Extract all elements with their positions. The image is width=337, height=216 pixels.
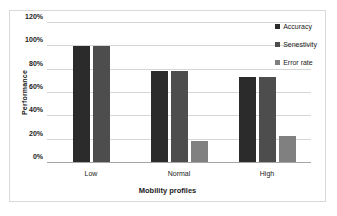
- legend-label: Accuracy: [283, 23, 312, 30]
- bar: [259, 77, 276, 163]
- legend-item: Senestivity: [275, 41, 317, 48]
- y-axis-tick-label: 120%: [25, 13, 43, 20]
- x-axis-category-label: Low: [47, 170, 135, 177]
- legend-item: Error rate: [275, 59, 317, 66]
- y-axis-tick-label: 80%: [29, 59, 43, 66]
- y-axis-tick-label: 20%: [29, 129, 43, 136]
- chart-container: Performance 0%20%40%60%80%100%120% LowNo…: [9, 10, 326, 202]
- legend-item: Accuracy: [275, 23, 317, 30]
- y-axis-tick-label: 60%: [29, 83, 43, 90]
- x-axis-category-label: High: [223, 170, 311, 177]
- legend-swatch-icon: [275, 60, 280, 65]
- bar: [151, 71, 168, 163]
- legend-label: Error rate: [283, 59, 313, 66]
- chart-legend: AccuracySenestivityError rate: [275, 23, 317, 66]
- x-axis-title: Mobility profiles: [10, 186, 325, 195]
- x-axis-category-label: Normal: [135, 170, 223, 177]
- bar: [239, 77, 256, 163]
- bar: [93, 46, 110, 163]
- y-axis-tick-label: 0%: [33, 153, 43, 160]
- bar: [279, 136, 296, 163]
- legend-swatch-icon: [275, 42, 280, 47]
- bar: [73, 46, 90, 163]
- y-axis-tick-label: 40%: [29, 106, 43, 113]
- plot-area: 0%20%40%60%80%100%120% LowNormalHigh: [47, 23, 311, 163]
- bar-group: Normal: [135, 23, 223, 163]
- legend-label: Senestivity: [283, 41, 317, 48]
- y-axis-title: Performance: [21, 53, 28, 133]
- x-axis-line: [47, 162, 311, 163]
- legend-swatch-icon: [275, 24, 280, 29]
- y-axis-tick-label: 100%: [25, 36, 43, 43]
- bar: [171, 71, 188, 163]
- bar: [191, 141, 208, 163]
- bar-group: Low: [47, 23, 135, 163]
